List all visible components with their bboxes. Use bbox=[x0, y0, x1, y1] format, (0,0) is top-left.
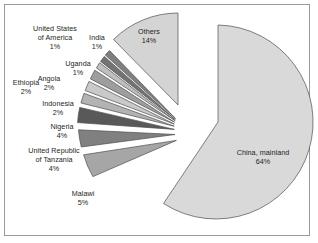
slice-label-nigeria-percent: 4% bbox=[40, 131, 84, 140]
slice-label-malawi-name: Malawi bbox=[60, 189, 106, 198]
slice-label-tanzania-name-line1: United Republic bbox=[17, 146, 91, 155]
slice-label-tanzania: United Republic of Tanzania 4% bbox=[17, 146, 91, 174]
slice-label-tanzania-percent: 4% bbox=[17, 164, 91, 173]
slice-label-indonesia: Indonesia 2% bbox=[32, 99, 84, 117]
slice-label-china-name: China, mainland bbox=[219, 148, 307, 157]
slice-label-others-percent: 14% bbox=[120, 36, 178, 45]
slice-label-ethiopia: Ethiopia 2% bbox=[4, 78, 48, 96]
slice-label-usa: United States of America 1% bbox=[25, 24, 85, 52]
pie-slice-china[interactable] bbox=[164, 25, 314, 219]
slice-label-tanzania-name-line2: of Tanzania bbox=[17, 155, 91, 164]
slice-label-usa-percent: 1% bbox=[25, 42, 85, 51]
pie-chart-figure: China, mainland 64% Others 14% India 1% … bbox=[0, 0, 318, 243]
slice-label-others-name: Others bbox=[120, 27, 178, 36]
slice-label-china: China, mainland 64% bbox=[219, 148, 307, 166]
slice-label-usa-name-line2: of America bbox=[25, 33, 85, 42]
pie-slice-malawi[interactable] bbox=[84, 140, 177, 176]
slice-label-china-percent: 64% bbox=[219, 157, 307, 166]
slice-label-indonesia-name: Indonesia bbox=[32, 99, 84, 108]
slice-label-others: Others 14% bbox=[120, 27, 178, 45]
slice-label-usa-name-line1: United States bbox=[25, 24, 85, 33]
slice-label-nigeria: Nigeria 4% bbox=[40, 122, 84, 140]
slice-label-malawi-percent: 5% bbox=[60, 198, 106, 207]
slice-label-indonesia-percent: 2% bbox=[32, 108, 84, 117]
slice-label-malawi: Malawi 5% bbox=[60, 189, 106, 207]
slice-label-ethiopia-percent: 2% bbox=[4, 87, 48, 96]
slice-label-ethiopia-name: Ethiopia bbox=[4, 78, 48, 87]
slice-label-nigeria-name: Nigeria bbox=[40, 122, 84, 131]
slice-label-uganda-name: Uganda bbox=[55, 59, 101, 68]
